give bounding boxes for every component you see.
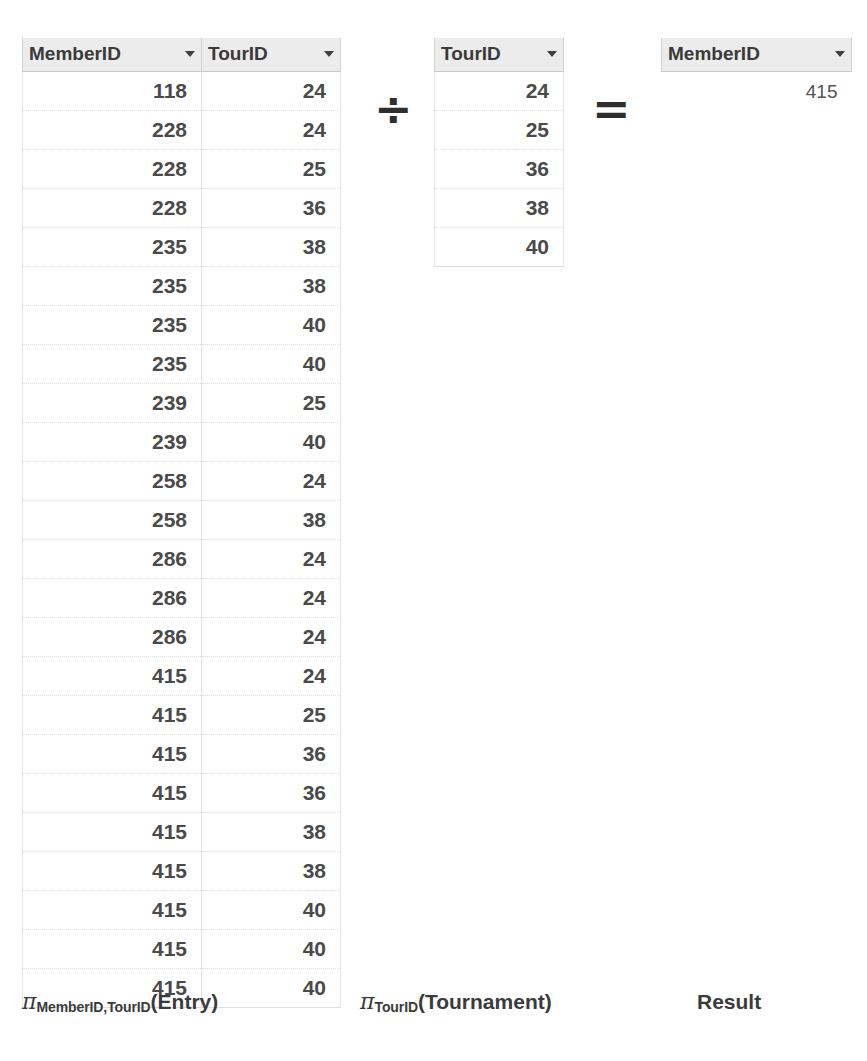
table-cell-tourid[interactable]: 38 [202,228,341,267]
table-cell-tourid[interactable]: 38 [202,813,341,852]
table-cell-memberid[interactable]: 235 [23,345,202,384]
projection-symbol: π [22,989,36,1014]
table-row[interactable]: 41538 [23,813,341,852]
table-cell-memberid[interactable]: 415 [662,72,852,110]
table-cell-tourid[interactable]: 24 [202,462,341,501]
chevron-down-icon[interactable] [185,51,195,57]
table-cell-tourid[interactable]: 40 [202,930,341,969]
table-row[interactable]: 22824 [23,111,341,150]
table-cell-tourid[interactable]: 40 [202,306,341,345]
table-cell-memberid[interactable]: 239 [23,423,202,462]
table-row[interactable]: 38 [435,189,564,228]
projection-attributes: MemberID,TourID [36,999,150,1015]
table-cell-memberid[interactable]: 415 [23,735,202,774]
table-cell-tourid[interactable]: 36 [435,150,564,189]
result-table-body: 415 [662,72,852,110]
table-row[interactable]: 22836 [23,189,341,228]
chevron-down-icon[interactable] [835,51,845,57]
table-cell-memberid[interactable]: 258 [23,501,202,540]
table-cell-tourid[interactable]: 24 [435,72,564,111]
table-cell-memberid[interactable]: 415 [23,852,202,891]
table-cell-memberid[interactable]: 235 [23,306,202,345]
table-cell-tourid[interactable]: 38 [202,852,341,891]
table-cell-memberid[interactable]: 235 [23,228,202,267]
table-row[interactable]: 23538 [23,228,341,267]
table-cell-memberid[interactable]: 239 [23,384,202,423]
table-row[interactable]: 41540 [23,891,341,930]
table-cell-memberid[interactable]: 228 [23,111,202,150]
table-cell-tourid[interactable]: 40 [435,228,564,267]
table-cell-tourid[interactable]: 24 [202,540,341,579]
column-header-label: MemberID [668,43,760,65]
table-row[interactable]: 28624 [23,540,341,579]
table-cell-memberid[interactable]: 415 [23,813,202,852]
table-cell-memberid[interactable]: 286 [23,540,202,579]
entry-projection-table: MemberID TourID 118242282422825228362353… [22,38,341,1008]
table-row[interactable]: 23538 [23,267,341,306]
table-cell-memberid[interactable]: 415 [23,891,202,930]
tournament-table-header-row: TourID [435,38,564,72]
table-cell-tourid[interactable]: 38 [202,267,341,306]
table-cell-tourid[interactable]: 38 [202,501,341,540]
table-cell-memberid[interactable]: 118 [23,72,202,111]
table-row[interactable]: 23540 [23,345,341,384]
table-cell-memberid[interactable]: 415 [23,774,202,813]
column-header-label: TourID [441,43,501,65]
table-cell-tourid[interactable]: 25 [202,696,341,735]
table-row[interactable]: 41536 [23,735,341,774]
table-cell-memberid[interactable]: 415 [23,696,202,735]
table-cell-tourid[interactable]: 25 [202,384,341,423]
table-cell-tourid[interactable]: 40 [202,423,341,462]
table-cell-tourid[interactable]: 36 [202,774,341,813]
table-cell-memberid[interactable]: 415 [23,930,202,969]
table-cell-memberid[interactable]: 228 [23,150,202,189]
chevron-down-icon[interactable] [547,51,557,57]
table-row[interactable]: 22825 [23,150,341,189]
table-row[interactable]: 25838 [23,501,341,540]
table-cell-tourid[interactable]: 24 [202,72,341,111]
table-cell-tourid[interactable]: 36 [202,735,341,774]
table-row[interactable]: 24 [435,72,564,111]
figure-canvas: MemberID TourID 118242282422825228362353… [0,0,867,1061]
table-row[interactable]: 28624 [23,579,341,618]
table-cell-tourid[interactable]: 40 [202,969,341,1008]
table-cell-tourid[interactable]: 24 [202,111,341,150]
table-row[interactable]: 25824 [23,462,341,501]
table-cell-tourid[interactable]: 25 [435,111,564,150]
table-cell-tourid[interactable]: 38 [435,189,564,228]
table-row[interactable]: 36 [435,150,564,189]
table-row[interactable]: 415 [662,72,852,110]
table-cell-tourid[interactable]: 24 [202,657,341,696]
table-cell-tourid[interactable]: 36 [202,189,341,228]
table-row[interactable]: 41538 [23,852,341,891]
table-cell-memberid[interactable]: 235 [23,267,202,306]
table-row[interactable]: 11824 [23,72,341,111]
table-row[interactable]: 23540 [23,306,341,345]
table-cell-tourid[interactable]: 40 [202,345,341,384]
table-row[interactable]: 41540 [23,930,341,969]
table-row[interactable]: 41525 [23,696,341,735]
table-cell-memberid[interactable]: 415 [23,657,202,696]
column-header-tourid[interactable]: TourID [202,38,341,72]
table-cell-memberid[interactable]: 228 [23,189,202,228]
table-cell-memberid[interactable]: 258 [23,462,202,501]
table-row[interactable]: 40 [435,228,564,267]
table-cell-memberid[interactable]: 286 [23,618,202,657]
table-row[interactable]: 25 [435,111,564,150]
tournament-table-body: 2425363840 [435,72,564,267]
equals-operator: = [592,86,631,132]
table-cell-tourid[interactable]: 25 [202,150,341,189]
column-header-memberid[interactable]: MemberID [23,38,202,72]
table-row[interactable]: 28624 [23,618,341,657]
table-cell-memberid[interactable]: 286 [23,579,202,618]
table-row[interactable]: 41524 [23,657,341,696]
table-cell-tourid[interactable]: 24 [202,579,341,618]
column-header-tourid[interactable]: TourID [435,38,564,72]
column-header-memberid[interactable]: MemberID [662,38,852,72]
table-cell-tourid[interactable]: 24 [202,618,341,657]
table-row[interactable]: 41536 [23,774,341,813]
table-row[interactable]: 23925 [23,384,341,423]
chevron-down-icon[interactable] [324,51,334,57]
table-cell-tourid[interactable]: 40 [202,891,341,930]
table-row[interactable]: 23940 [23,423,341,462]
